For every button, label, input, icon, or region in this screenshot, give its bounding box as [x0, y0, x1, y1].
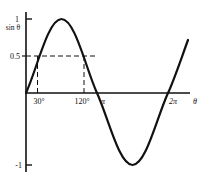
y-tick-label-0.5: 0.5	[10, 52, 20, 61]
x-tick-label-30: 30°	[33, 97, 44, 106]
x-axis-label: θ	[193, 97, 197, 106]
sine-curve	[26, 19, 188, 165]
y-tick-label-minus-1: -1	[15, 161, 22, 170]
x-tick-label-pi: π	[101, 97, 106, 106]
sine-graph-figure: 1 sin θ 0.5 -1 30° 120° π 2π θ	[0, 0, 210, 183]
x-tick-label-2pi: 2π	[169, 97, 178, 106]
x-tick-label-120: 120°	[74, 97, 89, 106]
y-axis-label: sin θ	[6, 23, 21, 32]
